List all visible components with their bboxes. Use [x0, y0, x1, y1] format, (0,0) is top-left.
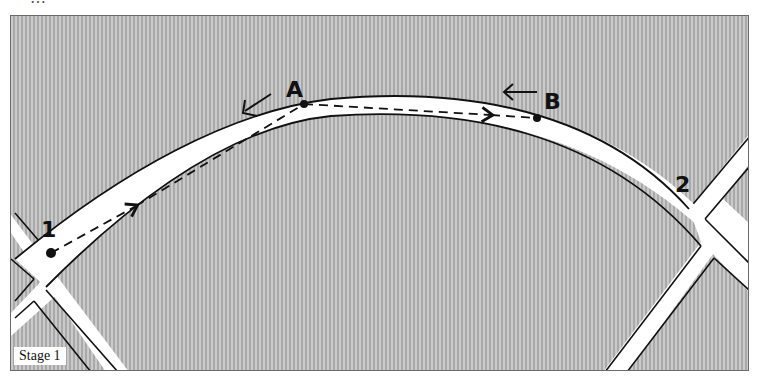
stage-label: Stage 1 [14, 347, 66, 365]
label-a: A [286, 77, 303, 102]
label-1: 1 [41, 217, 56, 242]
label-b: B [544, 89, 561, 114]
point-b-dot [533, 114, 541, 122]
label-2: 2 [675, 172, 690, 197]
cropped-caption: … [0, 0, 758, 6]
road-diagram-frame: 1 A B 2 [10, 15, 749, 371]
cropped-caption-text: … [30, 0, 48, 6]
road-diagram: 1 A B 2 [11, 16, 749, 371]
point-1-dot [46, 248, 56, 258]
